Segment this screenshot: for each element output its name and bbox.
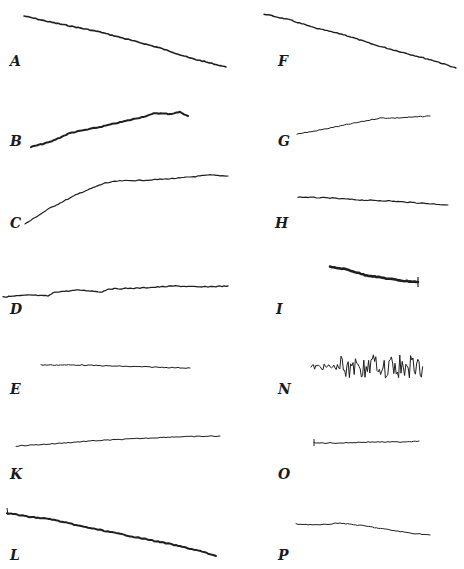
trace-n [311,355,423,378]
panel-label-i: I [276,302,283,316]
panel-label-b: B [10,134,22,148]
panel-label-l: L [10,548,20,562]
trace-f [264,14,456,68]
trace-i [330,267,418,282]
panel-label-h: H [275,216,288,230]
kymograph-figure: AFBCGHDIENKOLP [0,0,464,569]
panel-label-a: A [10,54,21,68]
trace-k [16,436,220,447]
panel-label-c: C [10,216,21,230]
trace-a [24,16,226,67]
trace-canvas [0,0,464,569]
trace-e [41,365,190,369]
panel-label-e: E [10,382,21,396]
panel-label-k: K [10,467,22,481]
panel-label-n: N [278,382,291,396]
trace-c [25,175,228,224]
trace-b [31,112,188,148]
trace-l [7,513,216,556]
panel-label-d: D [10,302,22,316]
trace-p [296,523,430,535]
trace-h [298,197,448,205]
panel-label-g: G [278,134,290,148]
panel-label-p: P [278,548,289,562]
trace-d [3,286,228,298]
trace-o [314,441,419,443]
panel-label-f: F [278,54,288,68]
panel-label-o: O [278,467,290,481]
trace-g [297,116,430,134]
